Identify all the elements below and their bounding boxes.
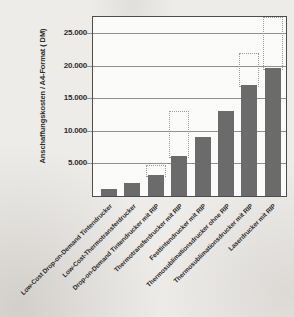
- y-tick-mark: [87, 33, 92, 34]
- y-tick-label: 5.000: [68, 158, 87, 167]
- bar: [171, 156, 187, 196]
- y-tick-mark: [87, 66, 92, 67]
- gridline: [93, 163, 286, 164]
- y-tick-label: 20.000: [64, 61, 87, 70]
- bar: [148, 175, 164, 196]
- dashed-max-range-box: [239, 53, 259, 87]
- bar: [218, 111, 234, 196]
- y-tick-mark: [87, 163, 92, 164]
- gridline: [93, 33, 286, 34]
- bar: [124, 183, 140, 196]
- y-axis-title-text: Anschaffungskosten / A4-Format ( DM): [38, 29, 47, 164]
- y-tick-label: 15.000: [64, 93, 87, 102]
- dashed-max-range-box: [169, 111, 189, 158]
- y-tick-label: 25.000: [64, 28, 87, 37]
- y-tick-mark: [87, 131, 92, 132]
- scanned-bar-chart-figure: Anschaffungskosten / A4-Format ( DM) 5.0…: [0, 0, 294, 317]
- gridline: [93, 131, 286, 132]
- bar: [265, 68, 281, 196]
- gridline: [93, 98, 286, 99]
- y-tick-mark: [87, 98, 92, 99]
- dashed-max-range-box: [263, 17, 283, 70]
- x-category-label: Laserdrucker mit RIP: [228, 203, 277, 252]
- y-tick-label: 10.000: [64, 126, 87, 135]
- plot-area: [92, 16, 287, 197]
- bar: [195, 137, 211, 196]
- bar: [101, 189, 117, 196]
- bar: [241, 85, 257, 196]
- x-category-label: Low-Cost Drop-on-Demand Tintendrucker: [20, 203, 114, 297]
